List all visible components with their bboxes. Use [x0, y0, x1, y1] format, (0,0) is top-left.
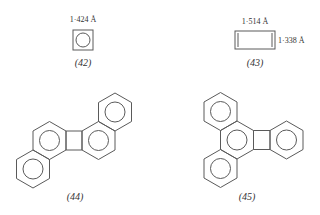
aromatic-circle: [76, 33, 90, 47]
aromatic-circle: [227, 130, 247, 150]
bond-length-top-label: 1·514 Å: [242, 17, 269, 26]
hexagon-ring: [270, 121, 303, 159]
hexagon-ring: [99, 93, 132, 131]
caption-45: (45): [239, 191, 256, 203]
structure-43: 1·514 Å 1·338 Å (43): [235, 17, 305, 69]
caption-42: (42): [75, 57, 92, 69]
aromatic-circle: [211, 102, 231, 122]
structure-45: (45): [204, 93, 303, 204]
aromatic-circle: [211, 159, 231, 179]
caption-43: (43): [247, 57, 264, 69]
aromatic-circle: [40, 131, 60, 151]
aromatic-circle: [23, 159, 43, 179]
hexagon-ring: [221, 121, 254, 159]
hexagon-ring: [204, 150, 237, 188]
structure-44: (44): [17, 93, 132, 203]
hexagon-ring: [17, 150, 50, 188]
hexagon-ring: [82, 122, 115, 160]
rectangle-ring: [235, 31, 275, 49]
aromatic-circle: [89, 131, 109, 151]
bond-length-side-label: 1·338 Å: [278, 36, 305, 45]
structure-42: 1·424 Å (42): [70, 15, 97, 69]
caption-44: (44): [67, 191, 84, 203]
bond-length-label: 1·424 Å: [70, 15, 97, 24]
figure-canvas: 1·424 Å (42) 1·514 Å 1·338 Å (43) (44): [0, 0, 320, 215]
hexagon-ring: [33, 122, 66, 160]
square-ring: [66, 131, 82, 150]
aromatic-circle: [277, 130, 297, 150]
aromatic-circle: [105, 102, 125, 122]
square-ring: [254, 131, 271, 150]
hexagon-ring: [204, 93, 237, 131]
